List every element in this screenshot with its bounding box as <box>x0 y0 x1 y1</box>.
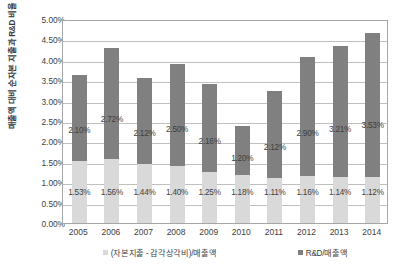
legend-label-rnd: R&D/매출액 <box>306 246 347 258</box>
y-axis-title: 매출액 대비 순자본 지출과 R&D 비율 <box>5 0 17 171</box>
plot-area: 1.53%2.10%1.56%2.72%1.44%2.12%1.40%2.50%… <box>62 20 388 224</box>
data-label-rnd: 3.21% <box>324 125 356 134</box>
data-label-capex: 1.12% <box>358 188 388 197</box>
data-label-rnd: 2.50% <box>161 125 193 134</box>
data-label-rnd: 2.10% <box>63 126 95 135</box>
bar-segment-capex[interactable] <box>202 172 217 223</box>
data-label-capex: 1.40% <box>162 188 192 197</box>
bar-segment-rnd[interactable] <box>104 48 119 159</box>
legend-label-capex: (자본지출 - 감각상각비)/매출액 <box>111 246 217 258</box>
data-label-rnd: 2.12% <box>259 143 291 152</box>
data-label-capex: 1.18% <box>227 188 257 197</box>
legend-item-rnd[interactable]: R&D/매출액 <box>298 246 347 258</box>
chart-legend: (자본지출 - 감각상각비)/매출액 R&D/매출액 <box>62 245 388 259</box>
legend-swatch-capex <box>103 250 108 255</box>
bar-segment-capex[interactable] <box>333 177 348 224</box>
data-label-capex: 1.25% <box>195 188 225 197</box>
data-label-rnd: 2.72% <box>96 115 128 124</box>
legend-item-capex[interactable]: (자본지출 - 감각상각비)/매출액 <box>103 246 217 258</box>
data-label-rnd: 3.53% <box>357 121 389 130</box>
bar-segment-capex[interactable] <box>365 177 380 223</box>
data-label-rnd: 2.16% <box>194 137 226 146</box>
bar-segment-rnd[interactable] <box>235 126 250 175</box>
data-label-capex: 1.56% <box>97 188 127 197</box>
data-label-capex: 1.11% <box>260 188 290 197</box>
data-label-rnd: 1.20% <box>226 154 258 163</box>
data-label-rnd: 2.12% <box>129 129 161 138</box>
bar-segment-rnd[interactable] <box>137 78 152 164</box>
bar-series-group: 1.53%2.10%1.56%2.72%1.44%2.12%1.40%2.50%… <box>63 21 387 223</box>
y-axis-tick-mark <box>58 224 62 225</box>
bar-segment-rnd[interactable] <box>170 64 185 166</box>
data-label-capex: 1.16% <box>293 188 323 197</box>
bar-segment-rnd[interactable] <box>365 33 380 177</box>
bar-segment-rnd[interactable] <box>333 46 348 177</box>
bar-segment-rnd[interactable] <box>202 84 217 172</box>
data-label-capex: 1.44% <box>130 188 160 197</box>
bar-segment-capex[interactable] <box>300 176 315 223</box>
bar-segment-rnd[interactable] <box>300 57 315 175</box>
data-label-capex: 1.14% <box>325 188 355 197</box>
legend-swatch-rnd <box>298 250 303 255</box>
bar-segment-capex[interactable] <box>267 178 282 223</box>
data-label-capex: 1.53% <box>64 188 94 197</box>
data-label-rnd: 2.90% <box>292 129 324 138</box>
bar-segment-capex[interactable] <box>235 175 250 223</box>
x-axis-tick-label: 2014 <box>352 227 392 237</box>
bar-segment-rnd[interactable] <box>72 75 87 161</box>
bar-segment-rnd[interactable] <box>267 91 282 177</box>
chart-container: 매출액 대비 순자본 지출과 R&D 비율 5.00%4.50%4.00%3.5… <box>0 0 397 271</box>
